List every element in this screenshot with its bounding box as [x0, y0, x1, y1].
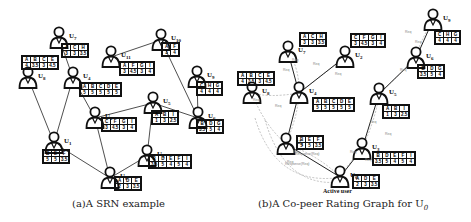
user-label: U8: [38, 72, 46, 81]
rating-cell: 3.5: [247, 79, 256, 85]
user-label: U4: [309, 87, 317, 96]
rating-table: ABCDE55555: [80, 83, 121, 96]
rating-cell: 4.5: [111, 125, 120, 131]
rating-cell: 4: [436, 38, 444, 44]
edge-label: Req: [292, 58, 298, 62]
rating-table: ACH333.5: [300, 33, 326, 46]
rating-cell: 5: [44, 157, 52, 163]
user-node-u9: [422, 8, 444, 32]
edge-label: Req: [253, 98, 259, 102]
rating-cell: 4: [214, 89, 222, 95]
rating-cell: 5: [322, 105, 330, 111]
rating-cell: 3.5: [31, 63, 40, 69]
rating-cell: 4: [171, 50, 179, 56]
rating-cell: 3: [63, 51, 71, 57]
rating-cell: 5: [306, 143, 314, 149]
user-node-u0: [329, 165, 351, 189]
user-label: U9: [443, 14, 451, 23]
rating-cell: 3: [71, 51, 79, 57]
user-node-u4: [288, 81, 310, 105]
rating-cell: 4: [452, 38, 460, 44]
rating-cell: 4: [146, 69, 154, 75]
user-icon: [329, 165, 351, 189]
rating-cell: 2.5: [400, 112, 409, 118]
rating-cell: 5: [428, 72, 436, 78]
rating-cell: 5: [97, 90, 105, 96]
user-icon: [334, 45, 356, 69]
rating-cell: 4: [128, 125, 136, 131]
rating-cell: 4: [407, 159, 415, 165]
rating-cell: 5: [383, 159, 391, 165]
edge-label: Req: [313, 62, 319, 66]
rating-cell: 3: [352, 41, 360, 47]
panel-co-peer-rating-graph: U7ACH333.5U2CFGI34.534U9CHG444U8ABCE43.5…: [235, 0, 471, 222]
edge-label: Req: [385, 132, 391, 136]
rating-cell: 3.5: [150, 162, 159, 168]
edge-label: Req: [335, 72, 341, 76]
rating-table: ADE233.5: [353, 175, 379, 188]
panel-srn-example: U7ACH333.5U8ABCE43.534.5U4ABCDE55555U11A…: [0, 0, 235, 222]
user-icon: [100, 45, 122, 69]
edge-label: Req: [275, 104, 281, 108]
rating-table: ABI132.5: [383, 105, 409, 118]
edge-label: Req: [365, 158, 371, 162]
rating-cell: 4: [167, 162, 175, 168]
user-label: U9: [207, 71, 215, 80]
rating-cell: 3: [309, 40, 317, 46]
rating-cell: 3.5: [198, 127, 207, 133]
response-label: Response(Req): [295, 152, 320, 156]
user-label: U1: [64, 137, 72, 146]
response-label: Response(Req): [285, 162, 310, 166]
rating-table: ABCDE55555: [313, 98, 354, 111]
rating-cell: 2: [116, 184, 124, 190]
rating-cell: 3: [362, 182, 370, 188]
edge-label: Req: [370, 120, 376, 124]
rating-cell: 3: [124, 184, 132, 190]
rating-cell: 3: [301, 40, 309, 46]
rating-cell: 3.5: [374, 159, 383, 165]
rating-cell: 3: [40, 63, 48, 69]
rating-cell: 3: [103, 125, 111, 131]
rating-table: BEF553.5: [297, 136, 323, 149]
user-label: U2: [355, 51, 363, 60]
edge-label: Req: [415, 40, 421, 44]
rating-table: AF34: [162, 43, 179, 56]
rating-cell: 4.5: [360, 41, 369, 47]
rating-cell: 5: [175, 162, 183, 168]
rating-cell: 3: [138, 69, 146, 75]
rating-cell: 3.5: [132, 184, 141, 190]
rating-cell: 2.5: [169, 118, 178, 124]
rating-cell: 4: [23, 63, 31, 69]
user-label: U7: [298, 46, 306, 55]
rating-table: ABI132.5: [152, 111, 178, 124]
rating-cell: 4: [391, 159, 399, 165]
user-icon: [17, 66, 39, 90]
caption-a: (a)A SRN example: [72, 198, 165, 209]
caption-b: (b)A Co-peer Rating Graph for U0: [258, 198, 428, 212]
user-node-u11: [100, 45, 122, 69]
rating-table: ABCE43.534.5: [238, 72, 274, 85]
rating-cell: 3.5: [314, 143, 323, 149]
rating-cell: 5: [298, 143, 306, 149]
rating-cell: 5: [346, 105, 354, 111]
rating-table: BDEFI3.55454: [373, 152, 415, 165]
rating-cell: 3.5: [419, 72, 428, 78]
rating-cell: 5: [52, 157, 60, 163]
rating-cell: 4: [239, 79, 247, 85]
rating-table: BDG3.554: [418, 65, 444, 78]
rating-cell: 5: [207, 127, 215, 133]
rating-cell: 4.5: [48, 63, 57, 69]
rating-cell: 3.5: [370, 182, 379, 188]
user-label: U8: [262, 87, 270, 96]
user-icon: [422, 8, 444, 32]
rating-cell: 4: [206, 89, 214, 95]
rating-cell: 5: [314, 105, 322, 111]
edge-label: Req: [283, 68, 289, 72]
rating-cell: 2: [354, 182, 362, 188]
active-user-label: Active user: [323, 188, 352, 194]
user-icon: [368, 82, 390, 106]
user-node-u5: [368, 82, 390, 106]
user-node-u2: [334, 45, 356, 69]
rating-table: ACH333.5: [62, 44, 88, 57]
rating-cell: 5: [338, 105, 346, 111]
